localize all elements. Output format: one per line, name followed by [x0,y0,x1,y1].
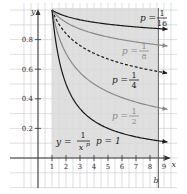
x-tick-label: 6 [120,163,125,171]
label-numerator: 1 [131,71,136,80]
x-tick-label: 1 [50,163,54,171]
x-tick-label: 3 [78,163,82,171]
y-tick-label: 0.6 [22,66,34,74]
label-numerator: 1 [131,107,136,116]
y-axis-label: y [30,7,36,16]
label-p-eq: p = [122,46,138,56]
formula-denominator: x [79,143,84,152]
label-p-eq: p = [112,111,128,121]
x-tick-label: 9 [162,163,166,171]
label-denominator: 4 [131,81,136,90]
formula-lhs: y = [55,137,72,147]
x-axis-label: x [172,160,177,169]
chart: yxb1234567890.20.40.60.8 p =116p =18p =1… [0,0,187,194]
label-denominator: 2 [131,117,136,126]
x-tick-label: 4 [92,163,97,171]
label-p-eq: p = [140,13,156,23]
x-tick-label: 2 [64,163,68,171]
y-tick-label: 0.4 [22,95,34,103]
x-tick-label: 8 [148,163,152,171]
x-tick-label: 5 [106,163,110,171]
label-p-eq: p = [112,75,128,85]
curve-arrow-icon [162,106,167,111]
formula-exponent: p [86,140,90,148]
b-label: b [153,176,158,185]
label-p-1: p = 1 [96,136,121,146]
formula-numerator: 1 [80,131,85,140]
y-tick-label: 0.8 [22,36,33,44]
x-tick-label: 7 [134,163,138,171]
curve-arrow-icon [162,70,167,75]
label-denominator: 8 [141,52,146,61]
label-numerator: 1 [159,9,164,18]
label-denominator: 16 [157,19,167,28]
x-axis-arrow-icon [165,156,171,161]
y-tick-label: 0.2 [22,125,33,133]
label-numerator: 1 [141,42,146,51]
